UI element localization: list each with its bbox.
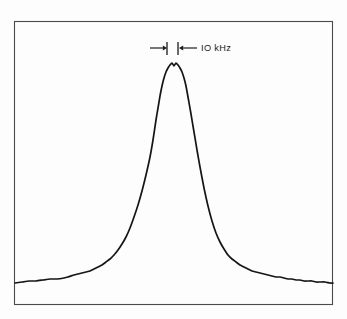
figure-background <box>0 0 347 319</box>
figure-container: IO kHz <box>0 0 347 319</box>
spectral-line-figure: IO kHz <box>0 0 347 319</box>
linewidth-label: IO kHz <box>201 43 231 53</box>
